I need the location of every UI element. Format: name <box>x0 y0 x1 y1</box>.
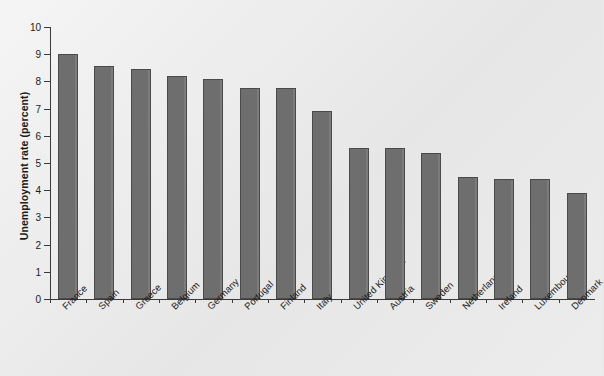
bar-group: Finland <box>268 27 304 299</box>
x-tick-mark <box>50 299 51 303</box>
bar <box>567 193 587 299</box>
x-tick-mark <box>123 299 124 303</box>
y-tick-label: 2 <box>35 239 41 250</box>
bar <box>349 148 369 299</box>
x-tick-mark <box>86 299 87 303</box>
y-tick-label: 10 <box>30 22 41 33</box>
y-tick-label: 8 <box>35 76 41 87</box>
bar-group: Netherlands <box>450 27 486 299</box>
y-tick-label: 7 <box>35 103 41 114</box>
bar <box>58 54 78 299</box>
x-tick-mark <box>341 299 342 303</box>
y-axis-title: Unemployment rate (percent) <box>18 56 30 276</box>
x-tick-mark <box>232 299 233 303</box>
x-tick-mark <box>559 299 560 303</box>
bar <box>421 153 441 299</box>
bar-group: United Kingdom <box>341 27 377 299</box>
bar <box>131 69 151 299</box>
y-tick-label: 6 <box>35 130 41 141</box>
x-tick-mark <box>268 299 269 303</box>
bar-group: Belgium <box>159 27 195 299</box>
x-tick-mark <box>159 299 160 303</box>
bar <box>167 76 187 299</box>
y-tick-label: 4 <box>35 185 41 196</box>
bar <box>94 66 114 299</box>
x-tick-mark <box>377 299 378 303</box>
bar <box>385 148 405 299</box>
bar-group: Ireland <box>486 27 522 299</box>
x-tick-mark <box>195 299 196 303</box>
x-tick-mark <box>522 299 523 303</box>
bar-group: Sweden <box>413 27 449 299</box>
bar-group: Luxembourg <box>522 27 558 299</box>
bar-group: France <box>50 27 86 299</box>
bar-series: FranceSpainGreeceBelgiumGermanyPortugalF… <box>50 27 595 299</box>
y-tick-label: 0 <box>35 294 41 305</box>
y-tick-label: 9 <box>35 49 41 60</box>
plot-area: 109876543210 FranceSpainGreeceBelgiumGer… <box>50 27 595 299</box>
bar-group: Germany <box>195 27 231 299</box>
bar-group: Greece <box>123 27 159 299</box>
bar-group: Austria <box>377 27 413 299</box>
bar-group: Italy <box>304 27 340 299</box>
bar <box>203 79 223 299</box>
x-tick-mark <box>486 299 487 303</box>
x-tick-mark <box>304 299 305 303</box>
y-tick-label: 1 <box>35 266 41 277</box>
bar <box>240 88 260 299</box>
bar-group: Portugal <box>232 27 268 299</box>
bar-group: Denmark <box>559 27 595 299</box>
bar-group: Spain <box>86 27 122 299</box>
bar <box>312 111 332 299</box>
bar <box>458 177 478 299</box>
bar <box>530 179 550 299</box>
bar <box>276 88 296 299</box>
y-tick-label: 3 <box>35 212 41 223</box>
x-tick-mark <box>450 299 451 303</box>
x-tick-mark <box>413 299 414 303</box>
bar <box>494 179 514 299</box>
y-tick-label: 5 <box>35 158 41 169</box>
